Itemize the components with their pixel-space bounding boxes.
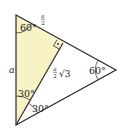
altitude-denominator: 2 — [53, 73, 57, 79]
half-side-numerator: a — [41, 13, 44, 19]
side-label-a: a — [9, 64, 15, 75]
altitude-label: a 2 √3 — [53, 66, 71, 79]
half-side-label: a 2 — [41, 13, 45, 26]
right-angle-dot — [57, 43, 59, 45]
altitude-numerator: a — [53, 66, 56, 72]
altitude-sqrt3: √3 — [59, 69, 71, 79]
angle-label-bottom-lower: 30° — [32, 103, 49, 114]
angle-label-top: 60° — [20, 22, 37, 33]
triangle-diagram: 60° 60° 30° 30° a a 2 a 2 √3 — [0, 0, 120, 135]
angle-label-bottom-upper: 30° — [18, 88, 35, 99]
half-side-denominator: 2 — [41, 20, 45, 26]
angle-label-right: 60° — [89, 65, 106, 76]
